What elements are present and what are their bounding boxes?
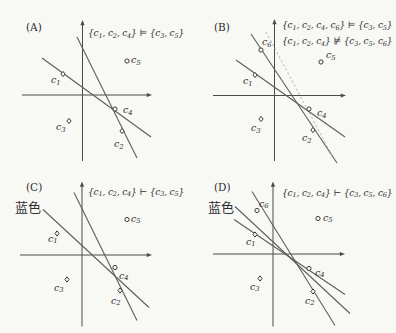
point-c4-marker bbox=[113, 265, 117, 269]
panel-tag-A: (A) bbox=[26, 21, 42, 33]
point-c5-marker bbox=[125, 217, 129, 221]
blue-annotation-label: 蓝色 bbox=[15, 200, 41, 215]
panel-tag-C: (C) bbox=[26, 181, 42, 193]
point-c4-marker bbox=[307, 266, 311, 270]
point-c6-marker bbox=[255, 208, 259, 212]
figure-canvas: (A){c1, c2, c4} ⊨ {c3, c5}c1c5c4c3c2(B){… bbox=[0, 0, 396, 333]
point-c5-marker bbox=[319, 60, 323, 64]
blue-annotation-label: 蓝色 bbox=[208, 200, 234, 215]
point-c4-marker bbox=[307, 107, 311, 111]
point-c5-marker bbox=[316, 216, 320, 220]
point-c5-marker bbox=[125, 59, 129, 63]
figure-background bbox=[0, 0, 396, 333]
diagram-svg: (A){c1, c2, c4} ⊨ {c3, c5}c1c5c4c3c2(B){… bbox=[0, 0, 396, 333]
point-c6-marker bbox=[259, 48, 263, 52]
panel-tag-D: (D) bbox=[214, 181, 231, 193]
panel-tag-B: (B) bbox=[214, 21, 230, 33]
point-c4-marker bbox=[113, 107, 117, 111]
